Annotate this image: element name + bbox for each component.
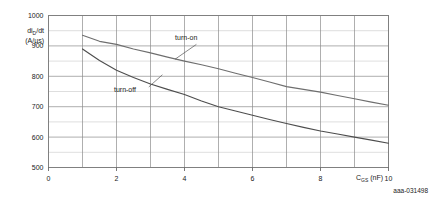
x-tick-label: 0 [47,175,51,182]
y-tick-label: 800 [32,73,44,80]
chart-svg: 5006007008009001000 0246810 diD/dt (A/µs… [0,0,439,204]
y-tick-label: 600 [32,134,44,141]
y-axis-label-line1: diD/dt [27,27,44,36]
y-tick-label: 500 [32,164,44,171]
series-label-turn-off: turn-off [114,86,136,93]
x-tick-label: 6 [251,175,255,182]
x-tick-label: 4 [183,175,187,182]
series-label-turn-on: turn-on [175,34,197,41]
x-tick-marks [49,168,389,172]
x-tick-label: 8 [319,175,323,182]
x-axis-label: CGS (nF) [356,174,383,183]
x-tick-label: 10 [385,175,393,182]
y-axis-label-line2: (A/µs) [25,37,44,45]
figure-code: aaa-031498 [393,187,428,194]
y-tick-label: 700 [32,103,44,110]
y-tick-label: 1000 [28,12,44,19]
x-tick-label: 2 [115,175,119,182]
series-leader-lines [149,44,197,87]
chart-figure: 5006007008009001000 0246810 diD/dt (A/µs… [0,0,439,204]
x-tick-labels: 0246810 [47,175,393,182]
